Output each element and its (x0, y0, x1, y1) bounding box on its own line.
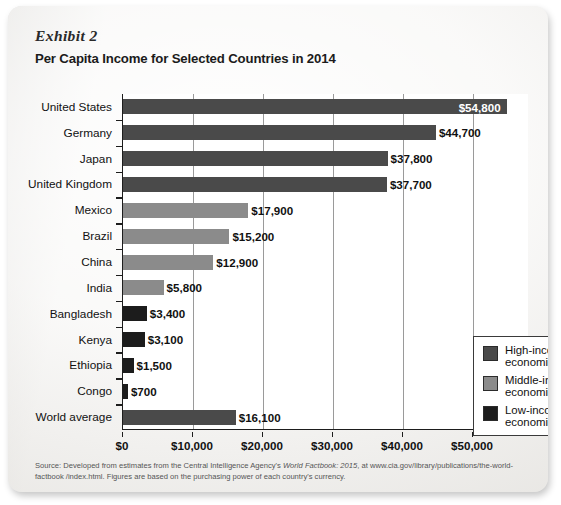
legend-item: High-incomeeconomies (483, 344, 548, 369)
category-label: China (8, 255, 122, 269)
axis-tick (262, 432, 263, 437)
category-label: India (8, 281, 122, 295)
bar-row: $37,800 (123, 147, 528, 171)
bar-row: $44,700 (123, 121, 528, 145)
bar-value-label: $54,800 (459, 100, 501, 113)
category-label: Kenya (8, 333, 122, 347)
bar (123, 255, 213, 270)
bar-row: $16,100 (123, 405, 528, 429)
category-axis: United StatesGermanyJapanUnited KingdomM… (8, 94, 122, 430)
value-axis: $0$10,000$20,000$30,000$40,000$50,000 (122, 432, 528, 456)
legend-label: Middle-incomeeconomies (505, 374, 548, 399)
axis-tick-label: $50,000 (451, 439, 493, 452)
bar (123, 229, 229, 244)
category-label: Brazil (8, 229, 122, 243)
source-publication: World Factbook: 2015 (283, 461, 357, 470)
bar-value-label: $37,800 (391, 152, 433, 165)
category-label: Mexico (8, 203, 122, 217)
bar-value-label: $15,200 (232, 230, 274, 243)
bar-row: $12,900 (123, 250, 528, 274)
legend-swatch (483, 376, 498, 391)
axis-tick-label: $20,000 (241, 439, 283, 452)
scanned-page: Exhibit 2 Per Capita Income for Selected… (8, 6, 548, 492)
chart-legend: High-incomeeconomiesMiddle-incomeeconomi… (473, 336, 548, 436)
category-label: Ethiopia (8, 358, 122, 372)
axis-tick-label: $10,000 (171, 439, 213, 452)
bar (123, 280, 164, 295)
bar-chart: United StatesGermanyJapanUnited KingdomM… (8, 6, 548, 492)
bar-row: $700 (123, 379, 528, 403)
bar-value-label: $5,800 (167, 281, 202, 294)
bar-value-label: $37,700 (390, 178, 432, 191)
category-label: United States (8, 100, 122, 114)
bar (123, 151, 388, 166)
legend-swatch (483, 346, 498, 361)
bar-row: $5,800 (123, 276, 528, 300)
bar (123, 384, 128, 399)
category-label: Germany (8, 126, 122, 140)
bar-row: $37,700 (123, 172, 528, 196)
category-label: World average (8, 410, 122, 424)
bar-value-label: $3,400 (150, 307, 185, 320)
source-note: Source: Developed from estimates from th… (35, 461, 527, 482)
legend-swatch (483, 406, 498, 421)
bar-rows: $54,800$44,700$37,800$37,700$17,900$15,2… (123, 94, 528, 429)
bar: $54,800 (123, 99, 507, 114)
bar-value-label: $3,100 (148, 333, 183, 346)
bar-row: $3,100 (123, 328, 528, 352)
legend-item: Low-incomeeconomies (483, 404, 548, 429)
axis-tick-label: $30,000 (311, 439, 353, 452)
bar-value-label: $700 (131, 385, 157, 398)
axis-tick (332, 432, 333, 437)
legend-item: Middle-incomeeconomies (483, 374, 548, 399)
category-label: Bangladesh (8, 307, 122, 321)
bar-row: $3,400 (123, 302, 528, 326)
bar-value-label: $44,700 (439, 126, 481, 139)
bar-value-label: $17,900 (251, 204, 293, 217)
axis-tick (122, 432, 123, 437)
legend-label: Low-incomeeconomies (505, 404, 548, 429)
bar (123, 358, 134, 373)
bar-row: $1,500 (123, 353, 528, 377)
axis-tick-label: $0 (116, 439, 129, 452)
bar (123, 332, 145, 347)
bar (123, 125, 436, 140)
category-label: Congo (8, 384, 122, 398)
bar (123, 306, 147, 321)
plot-area: $54,800$44,700$37,800$37,700$17,900$15,2… (122, 94, 528, 430)
bar-row: $15,200 (123, 224, 528, 248)
bar (123, 203, 248, 218)
legend-label: High-incomeeconomies (505, 344, 548, 369)
bar-value-label: $1,500 (137, 359, 172, 372)
source-text-part1: Source: Developed from estimates from th… (35, 461, 283, 470)
bar-value-label: $12,900 (216, 256, 258, 269)
bar-row: $17,900 (123, 198, 528, 222)
axis-tick-label: $40,000 (381, 439, 423, 452)
category-label: Japan (8, 152, 122, 166)
bar (123, 410, 236, 425)
axis-tick (192, 432, 193, 437)
bar (123, 177, 387, 192)
axis-tick (402, 432, 403, 437)
bar-row: $54,800 (123, 95, 528, 119)
bar-value-label: $16,100 (239, 411, 281, 424)
category-label: United Kingdom (8, 177, 122, 191)
